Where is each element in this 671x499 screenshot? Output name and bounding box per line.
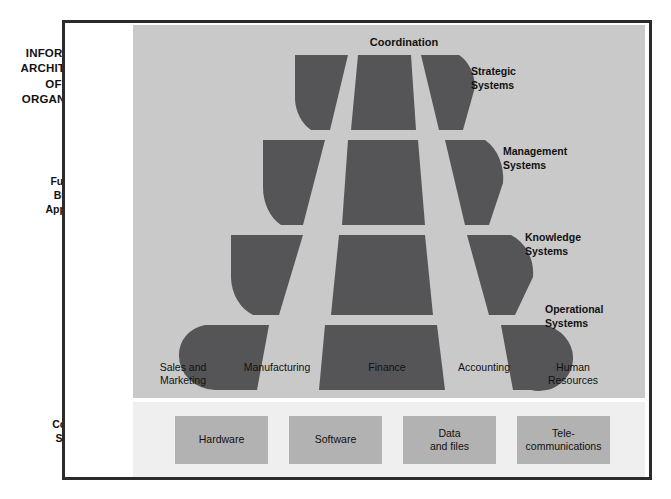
column-manufacturing-line-1: Manufacturing [219, 361, 335, 374]
shape-knowledge-left [231, 235, 303, 315]
shape-knowledge-right [467, 235, 533, 315]
label-knowledge-systems: Knowledge Systems [525, 231, 645, 258]
base-box-hardware: Hardware [175, 416, 268, 464]
label-management-line-2: Systems [503, 159, 623, 173]
column-finance-line-1: Finance [329, 361, 445, 374]
column-label-sales-and-marketing: Sales and Marketing [133, 361, 233, 388]
label-strategic-line-1: Strategic [471, 65, 581, 79]
base-box-software: Software [289, 416, 382, 464]
shape-strategic-left [295, 55, 348, 130]
label-operational-line-2: Systems [545, 317, 645, 331]
label-strategic-line-2: Systems [471, 79, 581, 93]
base-software-line-1: Software [315, 433, 356, 446]
column-label-finance: Finance [329, 361, 445, 374]
base-telecom-line-1: Tele- [526, 427, 602, 440]
label-management-line-1: Management [503, 145, 623, 159]
shape-operational-center [319, 325, 445, 390]
base-data-line-2: and files [430, 440, 469, 453]
shape-management-left [263, 140, 325, 225]
shape-knowledge-center [331, 235, 433, 315]
column-label-manufacturing: Manufacturing [219, 361, 335, 374]
label-management-systems: Management Systems [503, 145, 623, 172]
shape-strategic-center [351, 55, 416, 130]
shape-management-center [342, 140, 425, 225]
shape-management-right [445, 140, 503, 225]
column-sales-line-1: Sales and [133, 361, 233, 374]
base-box-telecommunications: Tele- communications [517, 416, 610, 464]
label-operational-systems: Operational Systems [545, 303, 645, 330]
label-knowledge-line-2: Systems [525, 245, 645, 259]
base-telecom-line-2: communications [526, 440, 602, 453]
base-data-line-1: Data [430, 427, 469, 440]
label-strategic-systems: Strategic Systems [471, 65, 581, 92]
column-hr-line-1: Human [523, 361, 623, 374]
computer-systems-base-panel: Hardware Software Data and files Tele- c… [133, 402, 645, 477]
label-coordination: Coordination [329, 35, 479, 49]
column-hr-line-2: Resources [523, 374, 623, 387]
base-box-data-and-files: Data and files [403, 416, 496, 464]
shape-strategic-right [421, 55, 475, 130]
label-operational-line-1: Operational [545, 303, 645, 317]
base-hardware-line-1: Hardware [199, 433, 245, 446]
functional-applications-panel: Coordination Strategic Systems Managemen… [133, 25, 645, 398]
column-sales-line-2: Marketing [133, 374, 233, 387]
label-knowledge-line-1: Knowledge [525, 231, 645, 245]
column-label-human-resources: Human Resources [523, 361, 623, 388]
